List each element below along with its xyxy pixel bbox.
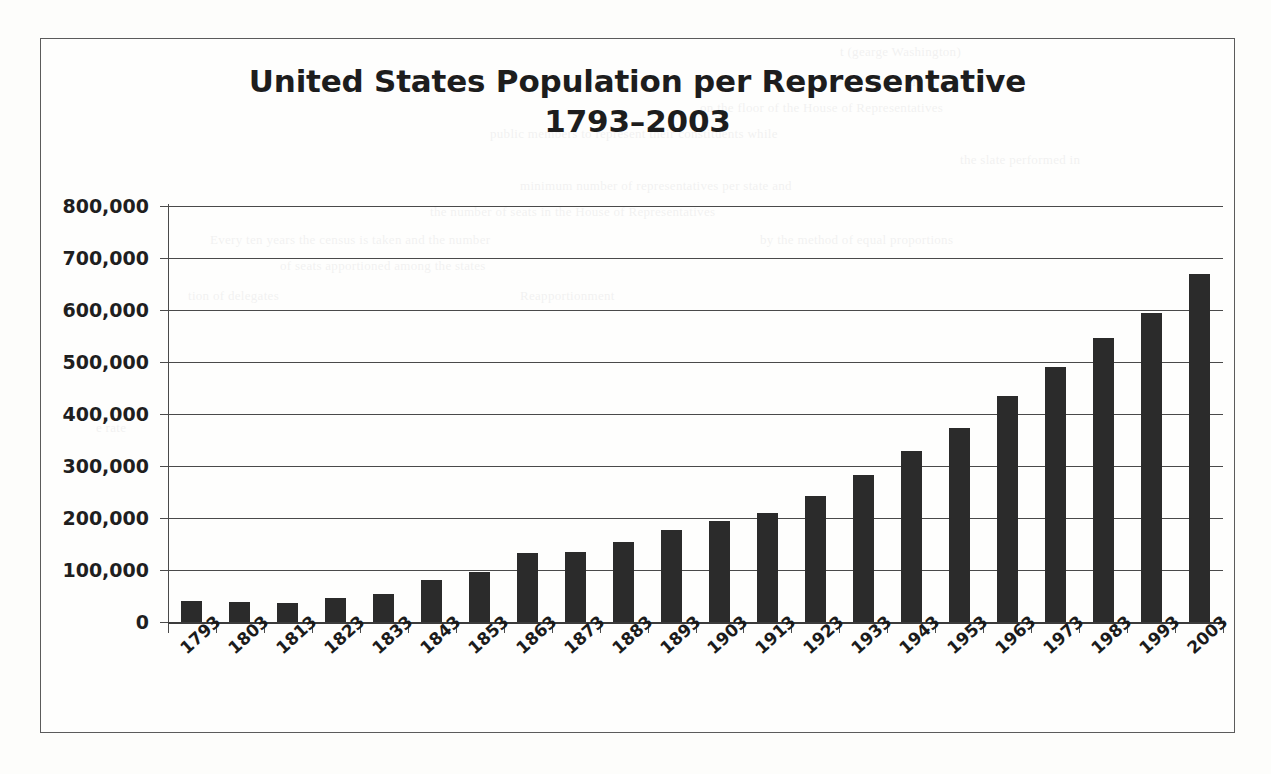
plot-area <box>168 206 1223 622</box>
bar <box>1189 274 1210 622</box>
y-axis-tick <box>160 362 168 363</box>
y-axis-tick <box>160 518 168 519</box>
bar <box>661 530 682 622</box>
bar <box>1093 338 1114 622</box>
y-axis-tick-label: 700,000 <box>62 247 149 269</box>
y-axis-tick-label: 800,000 <box>62 195 149 217</box>
chart-frame: United States Population per Representat… <box>40 38 1235 733</box>
y-axis-tick <box>160 258 168 259</box>
bar <box>949 428 970 622</box>
bar <box>709 521 730 622</box>
y-axis-tick-label: 100,000 <box>62 559 149 581</box>
bar <box>373 594 394 622</box>
bar <box>229 602 250 622</box>
y-axis-tick-label: 400,000 <box>62 403 149 425</box>
chart-title-line-1: United States Population per Representat… <box>41 61 1234 101</box>
y-axis-tick <box>160 414 168 415</box>
y-axis-tick <box>160 466 168 467</box>
bar <box>1045 367 1066 622</box>
bar <box>1141 313 1162 622</box>
bar <box>277 603 298 622</box>
bar <box>469 572 490 622</box>
y-axis-tick-label: 0 <box>136 611 149 633</box>
y-axis-tick <box>160 570 168 571</box>
y-axis-tick <box>160 310 168 311</box>
bar <box>757 513 778 622</box>
x-axis-tick <box>168 624 169 633</box>
y-axis-tick-label: 500,000 <box>62 351 149 373</box>
bar <box>805 496 826 622</box>
chart-title-line-2: 1793–2003 <box>41 101 1234 141</box>
bar <box>901 451 922 622</box>
bar <box>325 598 346 622</box>
y-axis-tick-label: 300,000 <box>62 455 149 477</box>
bar <box>613 542 634 622</box>
bar <box>565 552 586 622</box>
y-axis-tick-label: 600,000 <box>62 299 149 321</box>
x-axis-labels: 1793180318131823183318431853186318731883… <box>168 635 1225 715</box>
y-axis-tick <box>160 622 168 623</box>
bar-series <box>168 206 1223 622</box>
bar <box>517 553 538 622</box>
bar <box>997 396 1018 622</box>
bar <box>421 580 442 622</box>
y-axis-tick <box>160 206 168 207</box>
chart-title: United States Population per Representat… <box>41 61 1234 141</box>
bar <box>853 475 874 622</box>
y-axis-tick-label: 200,000 <box>62 507 149 529</box>
bar <box>181 601 202 622</box>
